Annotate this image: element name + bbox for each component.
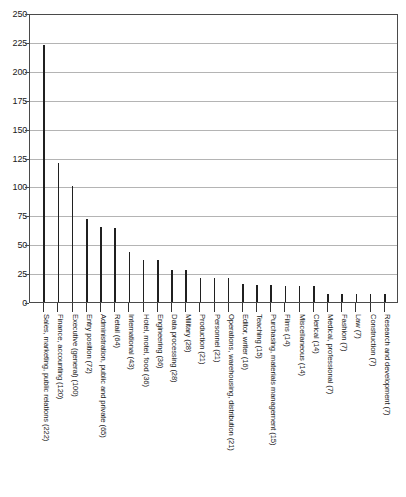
x-axis-tick-label: Clerical (14) (309, 314, 321, 496)
gridline (30, 187, 397, 188)
x-axis-tick-mark (72, 303, 73, 312)
x-axis-tick-mark (114, 303, 115, 312)
x-axis-label-text: Operations, warehousing, distribution (2… (227, 314, 235, 451)
y-axis-tick-label: 125 (0, 154, 27, 163)
gridline (30, 72, 397, 73)
x-axis-tick-label: Sales, marketing, public relations (222) (39, 314, 51, 496)
x-axis-tick-label: Teaching (15) (252, 314, 264, 496)
x-axis-label-text: Construction (7) (369, 314, 377, 366)
bar (341, 294, 343, 302)
x-axis-tick-mark (270, 303, 271, 312)
x-axis-label-text: Executive (general) (100) (71, 314, 79, 397)
x-axis-tick-mark (299, 303, 300, 312)
y-axis: 0255075100125150175200225250 (0, 0, 27, 497)
y-axis-tick-label: 25 (0, 270, 27, 279)
x-axis-tick-mark (157, 303, 158, 312)
x-axis-label-text: Personnel (21) (213, 314, 221, 362)
x-axis-tick-label: Entry position (72) (82, 314, 94, 496)
x-axis-tick-label: Retail (64) (110, 314, 122, 496)
bar (43, 45, 45, 302)
bar (327, 294, 329, 302)
x-axis-label-text: Engineering (36) (156, 314, 164, 369)
x-axis-tick-label: Executive (general) (100) (68, 314, 80, 496)
bar (228, 278, 230, 302)
x-axis-tick-mark (370, 303, 371, 312)
x-axis-label-text: Sales, marketing, public relations (222) (42, 314, 50, 441)
x-axis-label-text: Entry position (72) (85, 314, 93, 374)
x-axis-label-text: Research and development (7) (383, 314, 391, 415)
x-axis-tick-mark (214, 303, 215, 312)
x-axis-tick-mark (228, 303, 229, 312)
x-axis-tick-mark (384, 303, 385, 312)
x-axis-label-text: Hotel, motel, food (36) (142, 314, 150, 387)
x-axis-label-text: Medical, professional (7) (326, 314, 334, 394)
x-axis-label-text: Fashion (7) (340, 314, 348, 351)
y-axis-tick-label: 75 (0, 212, 27, 221)
x-axis-label-text: Administration, public and private (65) (99, 314, 107, 438)
bar (270, 285, 272, 302)
y-axis-tick-label: 0 (0, 299, 27, 308)
x-axis-tick-mark (327, 303, 328, 312)
x-axis-tick-label: Military (28) (181, 314, 193, 496)
gridline (30, 130, 397, 131)
x-axis-tick-mark (341, 303, 342, 312)
x-axis-label-text: Law (7) (354, 314, 362, 339)
x-axis-label-text: Purchasing, materials management (15) (269, 314, 277, 445)
x-axis-tick-mark (86, 303, 87, 312)
x-axis-label-text: Finance, accounting (120) (56, 314, 64, 399)
gridline (30, 43, 397, 44)
x-axis-tick-mark (143, 303, 144, 312)
bar (256, 285, 258, 302)
x-axis-tick-mark (100, 303, 101, 312)
x-axis-tick-mark (313, 303, 314, 312)
gridline (30, 216, 397, 217)
x-axis-tick-mark (256, 303, 257, 312)
x-axis-tick-label: Finance, accounting (120) (53, 314, 65, 496)
x-axis-label-text: Miscellaneous (14) (298, 314, 306, 376)
x-axis-tick-mark (57, 303, 58, 312)
x-axis-tick-label: Engineering (36) (153, 314, 165, 496)
x-axis-tick-mark (185, 303, 186, 312)
bar (143, 260, 145, 302)
bar (370, 294, 372, 302)
x-axis-tick-label: Fashion (7) (337, 314, 349, 496)
x-axis-label-text: Retail (64) (113, 314, 121, 348)
x-axis-tick-mark (128, 303, 129, 312)
x-axis-tick-label: Miscellaneous (14) (295, 314, 307, 496)
y-axis-tick-label: 200 (0, 67, 27, 76)
x-axis-tick-mark (355, 303, 356, 312)
x-axis-tick-mark (43, 303, 44, 312)
bar (384, 294, 386, 302)
x-axis-tick-mark (171, 303, 172, 312)
x-axis-tick-label: Editor, writer (16) (238, 314, 250, 496)
y-axis-tick-label: 250 (0, 10, 27, 19)
bar (313, 286, 315, 302)
bar (72, 186, 74, 302)
x-axis-label-text: Clerical (14) (312, 314, 320, 354)
x-axis-tick-label: Construction (7) (366, 314, 378, 496)
x-axis-tick-label: Personnel (21) (210, 314, 222, 496)
gridline (30, 159, 397, 160)
x-axis-tick-label: International (43) (124, 314, 136, 496)
bar (214, 278, 216, 302)
bar (157, 260, 159, 302)
x-axis-label-text: Production (21) (198, 314, 206, 364)
x-axis-label-text: Military (28) (184, 314, 192, 352)
x-axis-tick-label: Operations, warehousing, distribution (2… (224, 314, 236, 496)
y-axis-tick-label: 175 (0, 96, 27, 105)
bar (299, 286, 301, 302)
x-axis-tick-label: Hotel, motel, food (36) (139, 314, 151, 496)
bar (200, 278, 202, 302)
bar (171, 270, 173, 302)
x-axis-tick-label: Purchasing, materials management (15) (266, 314, 278, 496)
y-axis-tick-label: 225 (0, 38, 27, 47)
x-axis-tick-label: Research and development (7) (380, 314, 392, 496)
x-axis-tick-mark (284, 303, 285, 312)
x-axis-label-text: International (43) (127, 314, 135, 370)
bar (242, 284, 244, 302)
x-axis-tick-label: Films (14) (280, 314, 292, 496)
y-axis-tick-label: 150 (0, 125, 27, 134)
x-axis-tick-label: Production (21) (195, 314, 207, 496)
y-axis-tick-label: 100 (0, 183, 27, 192)
x-axis: Sales, marketing, public relations (222)… (29, 303, 398, 497)
